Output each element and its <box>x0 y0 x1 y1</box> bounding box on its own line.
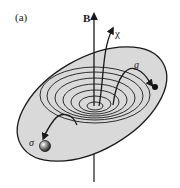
b-field-label: B <box>83 13 90 24</box>
g-particle <box>152 84 158 90</box>
sigma-label: σ <box>29 138 34 148</box>
diagram-figure <box>0 0 180 188</box>
plane-ellipse <box>0 23 180 185</box>
sigma-particle <box>40 141 51 152</box>
panel-label: (a) <box>15 12 27 23</box>
g-label: g <box>134 60 139 70</box>
chi-label: χ <box>115 28 120 39</box>
